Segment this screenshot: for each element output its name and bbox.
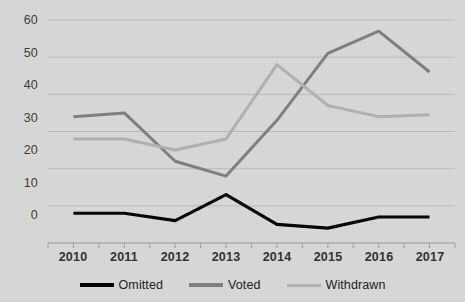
chart-legend: Omitted Voted Withdrawn bbox=[0, 278, 465, 292]
line-chart: 60 50 40 30 20 10 0 2010 2011 2012 2013 … bbox=[0, 0, 465, 302]
legend-item-voted[interactable]: Voted bbox=[189, 278, 260, 292]
plot-area bbox=[0, 0, 465, 302]
series-line-withdrawn bbox=[73, 65, 429, 150]
legend-item-withdrawn[interactable]: Withdrawn bbox=[287, 278, 386, 292]
legend-swatch-voted bbox=[189, 283, 223, 287]
legend-swatch-withdrawn bbox=[287, 284, 321, 287]
x-axis-ticks bbox=[48, 243, 455, 248]
legend-label-voted: Voted bbox=[228, 278, 260, 292]
legend-label-omitted: Omitted bbox=[119, 278, 163, 292]
series-line-omitted bbox=[73, 195, 429, 228]
legend-label-withdrawn: Withdrawn bbox=[326, 278, 386, 292]
legend-item-omitted[interactable]: Omitted bbox=[80, 278, 163, 292]
series-lines bbox=[73, 31, 429, 228]
legend-swatch-omitted bbox=[80, 283, 114, 287]
